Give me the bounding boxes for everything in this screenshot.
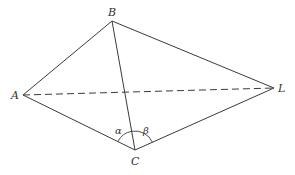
point-label-c: C [131, 155, 140, 168]
edge-b-l [112, 21, 274, 88]
angle-beta-label: β [142, 125, 149, 136]
edge-a-c [23, 95, 135, 150]
angle-alpha-label: α [115, 125, 122, 136]
point-label-a: A [10, 89, 19, 102]
edge-a-b [23, 21, 112, 95]
edge-a-l-dashed [23, 88, 274, 95]
point-label-l: L [277, 82, 285, 95]
point-label-b: B [107, 6, 116, 19]
geometry-diagram: α β B A L C [0, 0, 295, 175]
edge-c-l [135, 88, 274, 150]
